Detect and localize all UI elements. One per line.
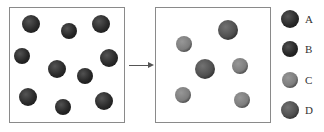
particle-b-icon [55, 99, 71, 115]
particle-a-icon [22, 15, 40, 33]
legend-c-icon [282, 72, 298, 88]
particle-c-icon [232, 58, 248, 74]
particle-a-icon [48, 60, 66, 78]
particle-b-icon [14, 48, 30, 64]
legend-label-d: D [305, 104, 313, 116]
legend-label-c: C [305, 74, 312, 86]
particle-a-icon [95, 92, 113, 110]
particle-a-icon [92, 15, 110, 33]
particle-a-icon [19, 88, 37, 106]
particle-b-icon [77, 68, 93, 84]
particle-c-icon [176, 36, 192, 52]
legend-b-icon [282, 41, 298, 57]
legend-d-icon [281, 101, 299, 119]
particle-c-icon [175, 87, 191, 103]
reaction-diagram: ABCD [0, 0, 324, 132]
legend-label-a: A [305, 13, 313, 25]
particle-b-icon [61, 23, 77, 39]
reaction-arrow-line [129, 65, 149, 66]
particle-d-icon [218, 20, 238, 40]
particle-d-icon [195, 59, 215, 79]
legend-a-icon [281, 10, 299, 28]
particle-a-icon [100, 49, 118, 67]
legend-label-b: B [305, 43, 312, 55]
reaction-arrow-icon [148, 62, 154, 68]
particle-c-icon [234, 92, 250, 108]
